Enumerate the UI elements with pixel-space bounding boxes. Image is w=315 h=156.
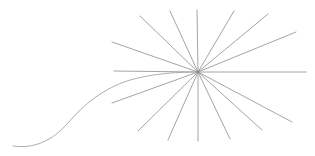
line-drawing-figure xyxy=(0,0,315,156)
figure-canvas xyxy=(0,0,315,156)
convergence-point xyxy=(197,71,200,74)
figure-background xyxy=(0,0,315,156)
